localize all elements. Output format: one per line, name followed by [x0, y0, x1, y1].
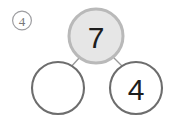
number-bond-worksheet-item: 4 7 4: [0, 0, 178, 123]
part-right-value: 4: [128, 73, 145, 106]
number-bond-diagram: 4 7 4: [0, 0, 178, 123]
whole-value: 7: [88, 21, 105, 54]
part-circle-left[interactable]: [32, 62, 84, 114]
item-number-label: 4: [19, 14, 26, 29]
